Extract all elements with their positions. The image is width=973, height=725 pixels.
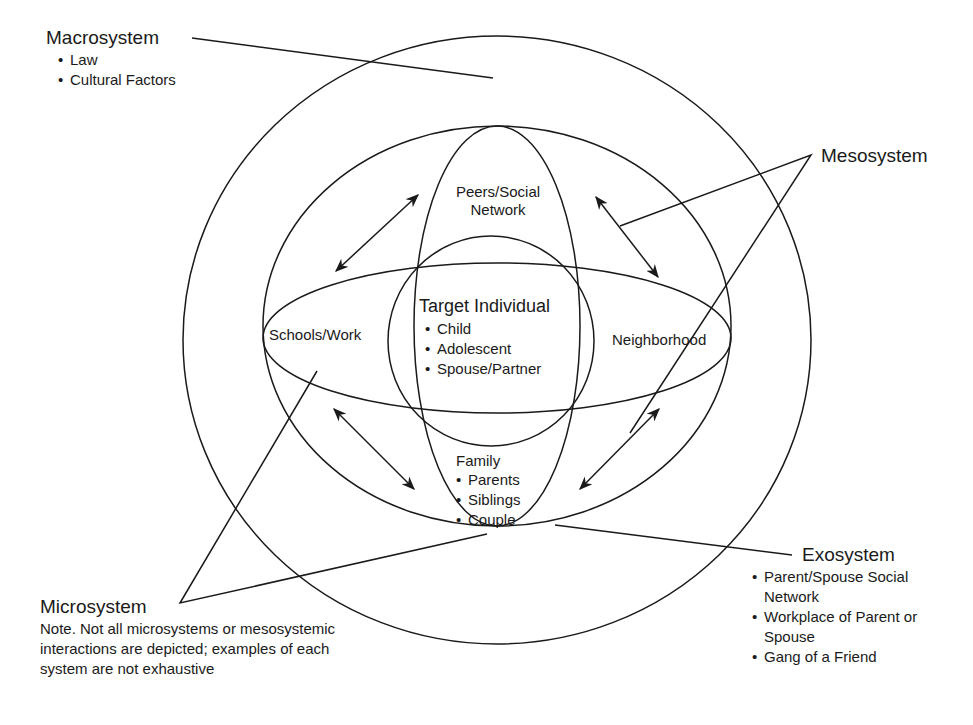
mesosystem-arrow-top-right	[596, 197, 658, 277]
list-item: Gang of a Friend	[752, 647, 952, 667]
list-item: Parent/Spouse Social Network	[752, 567, 949, 607]
family-label: Family Parents Siblings Couple	[456, 452, 521, 530]
list-item: Child	[425, 319, 550, 339]
exosystem-title: Exosystem	[802, 544, 952, 567]
microsystem-title: Microsystem	[40, 596, 350, 619]
macrosystem-label: Macrosystem Law Cultural Factors	[46, 27, 176, 90]
list-item: Adolescent	[425, 339, 550, 359]
list-item: Law	[58, 50, 176, 70]
mesosystem-arrow-bottom-left	[334, 409, 414, 489]
microsystem-label: Microsystem Note. Not all microsystems o…	[40, 596, 350, 679]
mesosystem-arrow-bottom-right	[580, 409, 659, 489]
neighborhood-label: Neighborhood	[612, 331, 706, 349]
macrosystem-list: Law Cultural Factors	[58, 50, 176, 90]
list-item: Parents	[456, 470, 521, 490]
mesosystem-arrow-top-left	[336, 195, 418, 271]
microsystem-note: Note. Not all microsystems or mesosystem…	[40, 619, 350, 679]
exosystem-label: Exosystem Parent/Spouse Social Network W…	[752, 544, 952, 667]
macrosystem-pointer	[192, 38, 493, 78]
peers-social-network-label: Peers/Social Network	[446, 183, 550, 219]
microsystem-pointer	[180, 371, 487, 603]
exosystem-list: Parent/Spouse Social Network Workplace o…	[752, 567, 952, 667]
family-list: Parents Siblings Couple	[456, 470, 521, 530]
target-individual-list: Child Adolescent Spouse/Partner	[425, 319, 550, 379]
list-item: Spouse/Partner	[425, 359, 550, 379]
family-title: Family	[456, 452, 521, 470]
list-item: Workplace of Parent or Spouse	[752, 607, 944, 647]
mesosystem-title: Mesosystem	[821, 145, 928, 168]
list-item: Couple	[456, 510, 521, 530]
target-individual-label: Target Individual Child Adolescent Spous…	[419, 296, 550, 379]
mesosystem-pointer	[620, 155, 811, 433]
target-individual-title: Target Individual	[419, 296, 550, 318]
peers-line-2: Network	[446, 201, 550, 219]
macrosystem-title: Macrosystem	[46, 27, 176, 50]
schools-work-label: Schools/Work	[269, 326, 361, 344]
list-item: Cultural Factors	[58, 70, 176, 90]
list-item: Siblings	[456, 490, 521, 510]
peers-line-1: Peers/Social	[446, 183, 550, 201]
